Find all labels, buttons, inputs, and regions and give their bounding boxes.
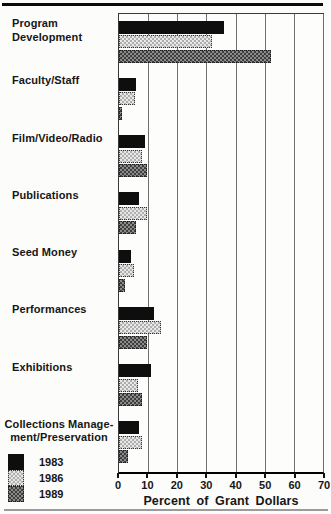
axis-tick-label: 0: [115, 479, 121, 491]
grant-dollars-chart: ProgramDevelopmentFaculty/StaffFilm/Vide…: [0, 0, 331, 514]
bar-group: [119, 300, 323, 357]
bar-1989: [119, 336, 147, 349]
category-label: ProgramDevelopment: [0, 17, 116, 44]
axis-tick: [264, 473, 266, 478]
bar-1986: [119, 379, 138, 392]
category-label: Performances: [0, 303, 116, 317]
legend-swatch-1983: [8, 454, 24, 470]
bottom-rule: [4, 509, 328, 511]
category-label: Exhibitions: [0, 361, 116, 375]
plot-area: [118, 13, 324, 474]
x-axis: Percent of Grant Dollars 010203040506070: [118, 473, 324, 513]
legend-label: 1989: [24, 488, 63, 500]
bar-group: [119, 415, 323, 472]
bar-1989: [119, 50, 271, 63]
legend: 198319861989: [8, 454, 63, 502]
axis-tick-label: 40: [230, 479, 242, 491]
bar-1986: [119, 207, 147, 220]
category-label-line: Seed Money: [12, 246, 116, 260]
bar-1983: [119, 250, 131, 263]
bar-1983: [119, 307, 154, 320]
bar-1983: [119, 364, 151, 377]
axis-tick: [117, 473, 119, 478]
bar-1989: [119, 221, 136, 234]
legend-item-1986: 1986: [8, 470, 63, 486]
legend-label: 1983: [24, 456, 63, 468]
bar-1989: [119, 450, 128, 463]
bar-1983: [119, 192, 139, 205]
category-label: Publications: [0, 189, 116, 203]
axis-tick-label: 50: [259, 479, 271, 491]
axis-tick: [205, 473, 207, 478]
legend-label: 1986: [24, 472, 63, 484]
bar-group: [119, 358, 323, 415]
legend-swatch-1986: [8, 470, 24, 486]
category-label-line: Program: [12, 17, 116, 31]
axis-tick-label: 20: [171, 479, 183, 491]
gridline-70: [323, 14, 324, 472]
axis-tick: [294, 473, 296, 478]
category-label-line: Film/Video/Radio: [12, 132, 116, 146]
axis-tick-label: 10: [141, 479, 153, 491]
category-label-line: Publications: [12, 189, 116, 203]
category-label-line: Exhibitions: [12, 361, 116, 375]
legend-swatch-1989: [8, 486, 24, 502]
bar-1986: [119, 92, 135, 105]
bar-group: [119, 186, 323, 243]
x-axis-title: Percent of Grant Dollars: [118, 494, 324, 508]
bar-group: [119, 71, 323, 128]
category-label-line: ment/Preservation: [2, 431, 116, 445]
bar-1989: [119, 393, 142, 406]
bar-1986: [119, 35, 212, 48]
category-label: Faculty/Staff: [0, 74, 116, 88]
category-label: Film/Video/Radio: [0, 132, 116, 146]
bar-1986: [119, 321, 161, 334]
legend-item-1989: 1989: [8, 486, 63, 502]
axis-tick-label: 70: [318, 479, 330, 491]
bar-1983: [119, 78, 136, 91]
axis-tick: [235, 473, 237, 478]
bar-1983: [119, 21, 224, 34]
axis-tick-label: 60: [288, 479, 300, 491]
bar-group: [119, 14, 323, 71]
bar-1986: [119, 264, 134, 277]
category-label-line: Collections Manage-: [2, 418, 116, 432]
bar-1983: [119, 421, 139, 434]
bar-1989: [119, 279, 125, 292]
category-label: Seed Money: [0, 246, 116, 260]
top-rule: [2, 3, 323, 6]
axis-tick-label: 30: [200, 479, 212, 491]
category-label-line: Development: [12, 31, 116, 45]
bar-1989: [119, 107, 122, 120]
axis-tick: [323, 473, 325, 478]
category-label-line: Faculty/Staff: [12, 74, 116, 88]
bar-group: [119, 243, 323, 300]
bar-1986: [119, 150, 142, 163]
bar-group: [119, 129, 323, 186]
bar-1989: [119, 164, 147, 177]
bar-1983: [119, 135, 145, 148]
category-label-line: Performances: [12, 303, 116, 317]
axis-tick: [176, 473, 178, 478]
legend-item-1983: 1983: [8, 454, 63, 470]
bar-1986: [119, 436, 142, 449]
axis-tick: [146, 473, 148, 478]
category-label: Collections Manage-ment/Preservation: [0, 418, 116, 445]
